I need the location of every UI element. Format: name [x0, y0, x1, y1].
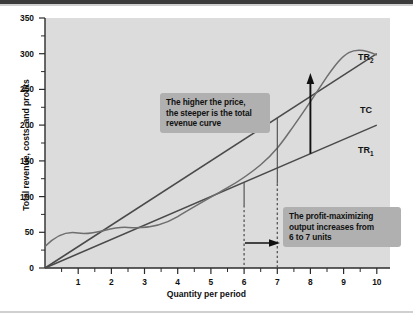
curve-label-tc: TC	[360, 105, 372, 115]
annotation-output-line1: The profit-maximizing	[289, 211, 395, 222]
x-tick-label-2: 2	[103, 277, 119, 287]
curve-label-tr1: TR1	[358, 145, 374, 157]
x-tick-label-6: 6	[236, 277, 252, 287]
figure-container: 350 300 250 200 150 100 50 0 1 2 3 4 5 6…	[0, 0, 413, 317]
annotation-price-line3: revenue curve	[166, 118, 264, 129]
annotation-price-line1: The higher the price,	[166, 97, 264, 108]
x-tick-label-4: 4	[170, 277, 186, 287]
x-tick-label-3: 3	[137, 277, 153, 287]
curve-label-tr1-text: TR	[358, 145, 370, 155]
curve-label-tr2-text: TR	[358, 52, 370, 62]
annotation-output-line3: 6 to 7 units	[289, 232, 395, 243]
annotation-output-line2: output increases from	[289, 222, 395, 233]
chart-plot	[0, 0, 413, 317]
x-tick-label-5: 5	[203, 277, 219, 287]
annotation-price-line2: the steeper is the total	[166, 108, 264, 119]
x-axis-title: Quantity per period	[0, 289, 413, 299]
y-axis-title: Total revenue, costs, and profits	[21, 45, 31, 245]
x-tick-label-8: 8	[302, 277, 318, 287]
annotation-price-steepness: The higher the price, the steeper is the…	[160, 93, 270, 133]
y-tick-label-350: 350	[8, 13, 34, 23]
x-tick-label-7: 7	[269, 277, 285, 287]
x-tick-label-10: 10	[369, 277, 385, 287]
y-tick-label-0: 0	[8, 263, 34, 273]
curve-label-tr2-subscript: 2	[370, 57, 374, 64]
annotation-profit-max-output: The profit-maximizing output increases f…	[283, 207, 401, 247]
x-tick-label-9: 9	[336, 277, 352, 287]
x-tick-label-1: 1	[70, 277, 86, 287]
curve-label-tr2: TR2	[358, 52, 374, 64]
curve-label-tr1-subscript: 1	[370, 150, 374, 157]
